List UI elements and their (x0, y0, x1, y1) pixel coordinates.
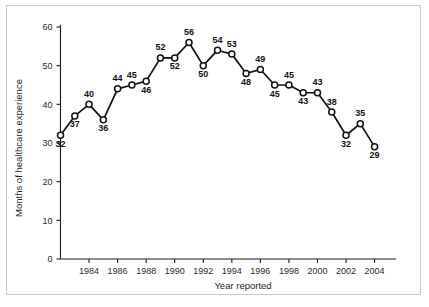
data-point-marker (314, 90, 320, 96)
x-tick-label: 2004 (365, 266, 385, 276)
data-point-marker (229, 51, 235, 57)
x-axis-title: Year reported (214, 280, 271, 291)
data-point-marker (329, 109, 335, 115)
x-tick-label: 2002 (336, 266, 356, 276)
data-point-label: 44 (113, 73, 123, 83)
y-axis-title: Months of healthcare experience (13, 79, 24, 217)
chart-figure: 0102030405060 19841986198819901992199419… (0, 0, 429, 307)
y-tick-label: 50 (42, 61, 52, 71)
y-tick-label: 60 (42, 22, 52, 32)
data-point-marker (100, 117, 106, 123)
data-point-label: 36 (98, 123, 108, 133)
data-point-label: 53 (227, 39, 237, 49)
data-point-label: 56 (184, 27, 194, 37)
data-point-label: 32 (341, 139, 351, 149)
x-tick-label: 2000 (307, 266, 327, 276)
x-tick-label: 1998 (279, 266, 299, 276)
data-point-marker (286, 82, 292, 88)
data-point-label: 32 (55, 139, 65, 149)
data-point-marker (143, 78, 149, 84)
data-point-marker (357, 121, 363, 127)
y-tick-label: 40 (42, 100, 52, 110)
data-point-marker (300, 90, 306, 96)
data-point-marker (257, 67, 263, 73)
x-tick-label: 1990 (165, 266, 185, 276)
data-point-marker (72, 113, 78, 119)
x-tick-label: 1988 (136, 266, 156, 276)
data-point-marker (372, 144, 378, 150)
data-point-marker (115, 86, 121, 92)
data-point-marker (86, 101, 92, 107)
data-point-marker (272, 82, 278, 88)
data-point-label: 52 (155, 42, 165, 52)
line-chart: 0102030405060 19841986198819901992199419… (0, 0, 429, 307)
x-axis: 1984198619881990199219941996199820002002… (61, 259, 397, 276)
data-point-marker (186, 39, 192, 45)
data-point-label: 29 (370, 150, 380, 160)
data-point-label: 46 (141, 85, 151, 95)
data-point-label: 50 (198, 69, 208, 79)
data-point-label: 43 (312, 77, 322, 87)
data-point-label: 49 (255, 54, 265, 64)
x-tick-label: 1996 (250, 266, 270, 276)
x-tick-label: 1986 (108, 266, 128, 276)
data-point-marker (172, 55, 178, 61)
x-tick-label: 1992 (193, 266, 213, 276)
data-point-label: 45 (270, 89, 280, 99)
data-point-marker (343, 132, 349, 138)
data-point-marker (58, 132, 64, 138)
data-point-label: 35 (355, 108, 365, 118)
data-point-marker (157, 55, 163, 61)
y-tick-label: 10 (42, 216, 52, 226)
data-point-marker (215, 47, 221, 53)
data-point-marker (200, 63, 206, 69)
data-point-label: 54 (213, 35, 223, 45)
data-point-marker (243, 70, 249, 76)
data-point-label: 37 (70, 119, 80, 129)
data-point-label: 48 (241, 77, 251, 87)
y-tick-label: 30 (42, 138, 52, 148)
x-tick-label: 1994 (222, 266, 242, 276)
y-tick-label: 20 (42, 177, 52, 187)
data-point-label: 45 (284, 70, 294, 80)
data-point-marker (129, 82, 135, 88)
data-point-label: 45 (127, 70, 137, 80)
data-point-label: 43 (298, 96, 308, 106)
data-point-label: 38 (327, 97, 337, 107)
data-point-label: 40 (84, 89, 94, 99)
x-tick-label: 1984 (79, 266, 99, 276)
y-tick-label: 0 (47, 254, 52, 264)
data-point-label: 52 (170, 61, 180, 71)
